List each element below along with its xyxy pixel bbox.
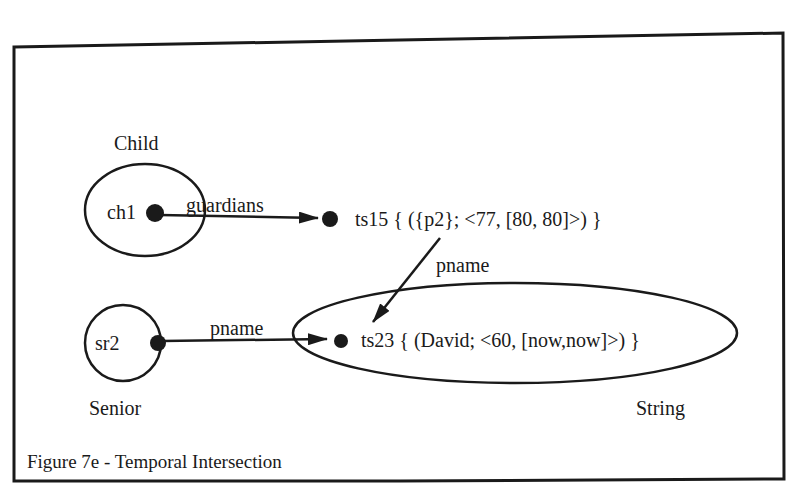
figure-caption: Figure 7e - Temporal Intersection: [27, 451, 282, 472]
edge-guardians: guardians: [160, 194, 318, 218]
edge-label-pname-lower: pname: [210, 317, 263, 340]
node-label-ts15: ts15 { ({p2}; <77, [80, 80]>) }: [355, 208, 602, 231]
figure-7e: Child ch1 guardians ts15 { ({p2}; <77, […: [0, 0, 802, 503]
class-string: ts23 { (David; <60, [now,now]>) } String: [293, 283, 737, 420]
node-label-sr2: sr2: [95, 332, 119, 354]
class-senior: sr2 Senior: [85, 305, 166, 419]
node-label-ch1: ch1: [107, 201, 136, 223]
edge-label-guardians: guardians: [186, 194, 264, 217]
class-label-senior: Senior: [89, 397, 142, 419]
node-ts15-dot: [322, 211, 338, 227]
class-label-string: String: [636, 397, 685, 420]
node-ts15: ts15 { ({p2}; <77, [80, 80]>) }: [322, 208, 602, 231]
node-sr2-dot: [150, 335, 166, 351]
edge-pname-ts15-ts23: pname: [373, 238, 489, 322]
node-label-ts23: ts23 { (David; <60, [now,now]>) }: [361, 329, 640, 352]
edge-label-pname-upper: pname: [436, 254, 489, 277]
node-ts23-dot: [334, 334, 348, 348]
node-ch1-dot: [146, 204, 164, 222]
edge-pname-sr2-ts23: pname: [162, 317, 327, 341]
class-label-child: Child: [114, 132, 158, 154]
